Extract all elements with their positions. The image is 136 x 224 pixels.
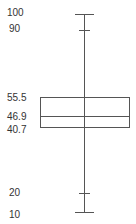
label-q1: 40.7 xyxy=(7,124,27,135)
label-median: 46.9 xyxy=(7,111,27,122)
label-p10: 20 xyxy=(9,187,21,198)
box-plot: 100 90 55.5 46.9 40.7 20 10 xyxy=(0,0,136,224)
label-max: 100 xyxy=(7,7,24,18)
label-min: 10 xyxy=(9,209,21,220)
label-p90: 90 xyxy=(9,23,21,34)
label-q3: 55.5 xyxy=(7,92,27,103)
